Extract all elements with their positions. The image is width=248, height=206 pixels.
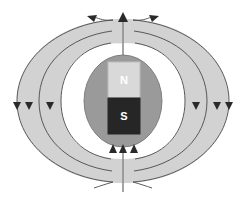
arrow-tail-bottom-left: [94, 182, 113, 188]
bar-magnet: N S: [108, 62, 140, 134]
magnetic-field-diagram: Dipole magnetic field of a sphere contai…: [0, 0, 248, 206]
arrow-top-left-icon: [87, 15, 97, 22]
arrow-top-right-icon: [149, 15, 159, 22]
magnet-north-pole: [108, 62, 140, 98]
magnetic-field-figure: Dipole magnetic field of a sphere contai…: [0, 0, 248, 206]
arrow-top-center-icon: [118, 12, 128, 22]
magnet-south-pole: [108, 98, 140, 134]
arrow-tail-bottom-right: [133, 182, 152, 188]
